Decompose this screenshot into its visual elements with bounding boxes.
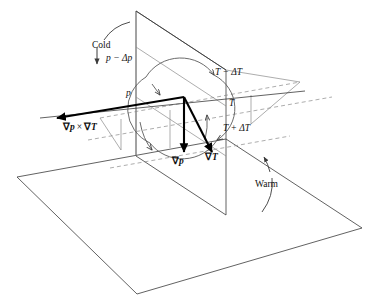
vector-grad-T-label: ∇T bbox=[205, 153, 218, 163]
gradp-subscript: p bbox=[179, 156, 184, 166]
vertical-plane bbox=[136, 11, 226, 215]
temp-plus-label: T + ΔT bbox=[223, 124, 250, 134]
figure-root: Cold p − Δp p T − ΔT T T + ΔT ∇p×∇T ∇p ∇… bbox=[0, 0, 369, 307]
vector-cross-product bbox=[57, 97, 184, 118]
temp-mid-label: T bbox=[229, 99, 234, 109]
nabla-symbol-gradT: ∇ bbox=[205, 152, 212, 162]
pressure-upper-label: p − Δp bbox=[106, 54, 132, 64]
vector-cross-product-label: ∇p×∇T bbox=[63, 123, 97, 133]
vector-grad-p-label: ∇p bbox=[172, 157, 184, 167]
nabla-sub-T: T bbox=[91, 122, 97, 132]
temp-minus-label: T − ΔT bbox=[215, 68, 242, 78]
warm-label: Warm bbox=[255, 180, 278, 190]
isobar-lines bbox=[136, 47, 226, 156]
nabla-symbol-gradp: ∇ bbox=[172, 156, 179, 166]
pressure-lower-label: p bbox=[126, 89, 131, 99]
gradT-subscript: T bbox=[212, 152, 218, 162]
diagram-canvas bbox=[0, 0, 369, 307]
cross-operator: × bbox=[75, 122, 84, 132]
horizontal-plane bbox=[17, 139, 362, 294]
perspective-guides bbox=[100, 11, 300, 156]
cold-label: Cold bbox=[92, 41, 110, 51]
nabla-symbol-1: ∇ bbox=[63, 122, 70, 132]
